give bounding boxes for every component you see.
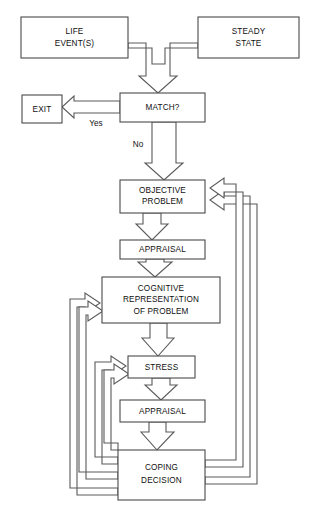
node-life-events-box — [21, 17, 128, 58]
node-exit: EXIT — [22, 95, 62, 123]
edge-label-yes: Yes — [89, 119, 102, 128]
node-life-events-label-2: EVENT(S) — [55, 39, 95, 48]
node-appraisal-2-label: APPRAISAL — [139, 407, 186, 416]
connector-life-steady-to-match — [128, 43, 198, 93]
node-steady-state-label-1: STEADY — [232, 27, 266, 36]
node-life-events-label-1: LIFE — [66, 27, 84, 36]
node-coping-decision: COPING DECISION — [118, 450, 205, 500]
node-stress-label: STRESS — [145, 363, 179, 372]
node-appraisal-1: APPRAISAL — [120, 240, 205, 259]
node-match-label: MATCH? — [146, 103, 180, 112]
node-coping-decision-label-2: DECISION — [141, 476, 182, 485]
connector-cognitive-rep-to-stress — [142, 323, 174, 356]
edge-label-no: No — [133, 140, 144, 149]
node-coping-decision-label-1: COPING — [145, 463, 178, 472]
node-steady-state-box — [198, 17, 299, 58]
node-life-events: LIFE EVENT(S) — [21, 17, 128, 58]
node-objective-problem: OBJECTIVE PROBLEM — [120, 180, 205, 213]
node-cognitive-representation-label-3: OF PROBLEM — [133, 307, 188, 316]
node-steady-state: STEADY STATE — [198, 17, 299, 58]
node-exit-label: EXIT — [33, 105, 52, 114]
connector-match-to-exit — [62, 96, 120, 118]
flowchart-diagram: LIFE EVENT(S) STEADY STATE EXIT MATCH? O… — [0, 0, 317, 516]
connector-appraisal-2-to-coping-decision — [141, 422, 174, 450]
node-cognitive-representation-label-2: REPRESENTATION — [123, 295, 199, 304]
connector-objective-problem-to-appraisal-1 — [136, 213, 168, 240]
node-objective-problem-label-1: OBJECTIVE — [139, 186, 186, 195]
node-steady-state-label-2: STATE — [236, 39, 262, 48]
node-cognitive-representation-label-1: COGNITIVE — [138, 284, 185, 293]
node-coping-decision-box — [118, 450, 205, 500]
node-stress: STRESS — [128, 356, 195, 378]
node-appraisal-1-label: APPRAISAL — [139, 245, 186, 254]
node-appraisal-2: APPRAISAL — [120, 400, 205, 422]
node-cognitive-representation: COGNITIVE REPRESENTATION OF PROBLEM — [102, 277, 220, 323]
connector-match-to-objective-problem — [145, 122, 183, 180]
connector-appraisal-1-to-cognitive-rep — [138, 259, 172, 277]
node-objective-problem-label-2: PROBLEM — [142, 197, 183, 206]
connector-coping-to-objective-problem-outer — [205, 190, 257, 484]
flowchart-canvas: LIFE EVENT(S) STEADY STATE EXIT MATCH? O… — [0, 0, 317, 516]
connector-stress-to-appraisal-2 — [145, 378, 177, 400]
node-match: MATCH? — [120, 93, 205, 122]
